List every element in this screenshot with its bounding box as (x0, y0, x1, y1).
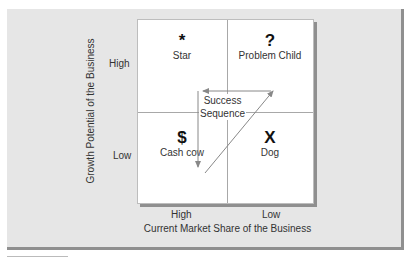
x-tick-low: Low (262, 209, 280, 220)
y-tick-low: Low (113, 150, 131, 161)
success-sequence-label: Success Sequence (199, 94, 246, 120)
x-tick-high: High (171, 209, 192, 220)
success-sequence-arrows (0, 0, 411, 260)
x-axis-label: Current Market Share of the Business (137, 223, 318, 234)
footnote-rule (7, 256, 68, 257)
sequence-label-line2: Sequence (200, 107, 245, 120)
y-axis-label: Growth Potential of the Business (85, 38, 96, 183)
y-tick-high: High (109, 58, 130, 69)
sequence-label-line1: Success (200, 94, 245, 107)
